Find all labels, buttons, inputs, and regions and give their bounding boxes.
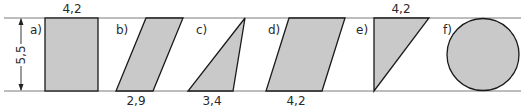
height-dimension: 5,5 [14,18,28,91]
shape-e-dimension: 4,2 [391,2,410,16]
shape-c-triangle: c) 3,4 [188,18,245,108]
shape-b-parallelogram: b) 2,9 [116,18,183,108]
height-label: 5,5 [14,45,28,64]
shape-e-triangle: e) 4,2 [356,2,429,91]
shape-b-dimension: 2,9 [126,94,145,108]
shape-b-label: b) [116,23,128,37]
shape-c-dimension: 3,4 [202,94,221,108]
shape-c-label: c) [196,23,207,37]
shape-a-label: a) [30,23,42,37]
shape-a-rectangle: a) 4,2 [30,2,98,91]
shapes-figure: 5,5 a) 4,2 b) 2,9 c) 3,4 d) 4,2 e) 4,2 f… [0,0,526,112]
shape-a-dimension: 4,2 [62,2,81,16]
shape-d-parallelogram: d) 4,2 [266,18,345,108]
shape-d-dimension: 4,2 [286,94,305,108]
shape-e-label: e) [356,23,368,37]
shape-f-label: f) [443,23,452,37]
shape-f-circle: f) [443,19,519,91]
shape-d-label: d) [268,23,280,37]
